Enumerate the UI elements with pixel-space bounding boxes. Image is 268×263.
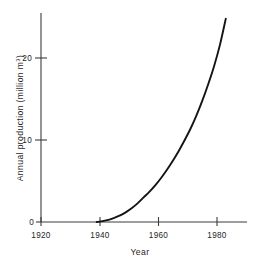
chart-figure: 20 10 0 1920 1940 1960 1980 Year Annual … bbox=[0, 0, 268, 263]
x-axis-title: Year bbox=[131, 247, 150, 257]
line-chart: 20 10 0 1920 1940 1960 1980 Year Annual … bbox=[0, 0, 268, 263]
x-tick-label-1920: 1920 bbox=[31, 231, 51, 240]
y-axis-title-suffix: ) bbox=[15, 55, 25, 58]
y-axis-title: Annual production (million m3) bbox=[15, 55, 25, 182]
x-tick-label-1940: 1940 bbox=[90, 231, 110, 240]
y-tick-label-0: 0 bbox=[29, 218, 34, 227]
x-tick-label-1960: 1960 bbox=[149, 231, 169, 240]
data-series-line bbox=[97, 19, 226, 222]
y-axis-title-group: Annual production (million m3) bbox=[15, 55, 25, 182]
y-axis-title-main: Annual production (million m bbox=[15, 62, 25, 182]
x-tick-label-1980: 1980 bbox=[207, 231, 227, 240]
